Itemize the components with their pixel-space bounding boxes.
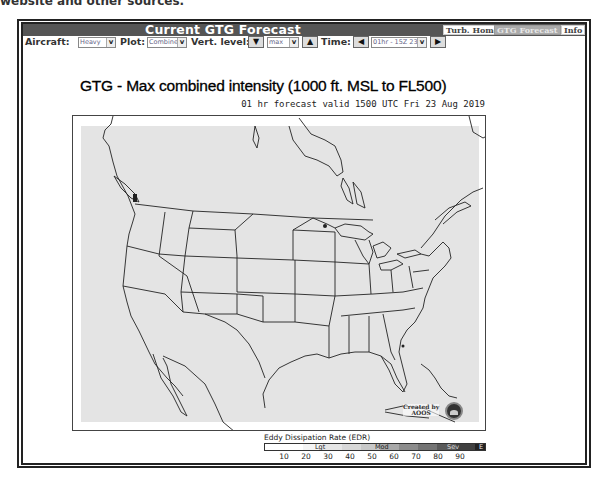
chevron-down-icon: v <box>177 38 186 47</box>
time-label: Time: <box>321 36 351 47</box>
vert-level-up-button[interactable]: ▲ <box>302 36 318 48</box>
aircraft-label: Aircraft: <box>25 36 70 47</box>
legend-tick: 80 <box>433 452 443 461</box>
legend-tick: 40 <box>345 452 355 461</box>
chart-subtitle: 01 hr forecast valid 1500 UTC Fri 23 Aug… <box>233 99 485 109</box>
legend-title: Eddy Dissipation Rate (EDR) <box>264 433 370 442</box>
legend-ticks: 10 20 30 40 50 60 70 80 90 <box>264 452 486 462</box>
triangle-down-icon: ▼ <box>253 37 259 46</box>
vert-level-label: Vert. level: <box>191 36 250 47</box>
legend-cat-extreme: E <box>479 443 483 451</box>
toolbar: Aircraft: Heavy v Plot: Combined v Vert.… <box>23 36 585 49</box>
plot-select[interactable]: Combined v <box>147 37 187 48</box>
chart-title: GTG - Max combined intensity (1000 ft. M… <box>80 77 446 95</box>
time-prev-button[interactable]: ◀ <box>353 36 369 48</box>
aircraft-select[interactable]: Heavy v <box>78 37 116 48</box>
legend-tick: 30 <box>323 452 333 461</box>
credit-text: Created by AOOS <box>403 404 439 416</box>
header-bar: Current GTG Forecast Turb. Home GTG Fore… <box>23 24 585 36</box>
info-button[interactable]: Info <box>561 25 585 35</box>
edr-color-bar: Lgt Mod Sev E <box>264 443 486 451</box>
vert-level-select-value: max <box>269 38 283 46</box>
gtg-forecast-button[interactable]: GTG Forecast <box>494 25 561 35</box>
aircraft-select-value: Heavy <box>80 38 101 46</box>
legend-tick: 10 <box>279 452 289 461</box>
forecast-map: Created by AOOS <box>72 115 486 431</box>
noaa-logo-icon <box>445 402 463 420</box>
triangle-right-icon: ▶ <box>435 37 441 46</box>
legend-tick: 90 <box>455 452 465 461</box>
legend-cat-moderate: Mod <box>375 443 389 451</box>
gtg-panel: Current GTG Forecast Turb. Home GTG Fore… <box>21 22 587 465</box>
triangle-up-icon: ▲ <box>307 37 313 46</box>
plot-label: Plot: <box>120 36 145 47</box>
us-map-outline <box>73 116 486 431</box>
chevron-down-icon: v <box>289 38 298 47</box>
panel-title: Current GTG Forecast <box>23 22 423 37</box>
page-text-cut-bottom: — — — — — — — <box>220 474 327 480</box>
legend-tick: 20 <box>301 452 311 461</box>
time-select[interactable]: 01hr - 15Z 23 Aug v <box>371 37 427 48</box>
legend-cat-light: Lgt <box>315 443 325 451</box>
chevron-down-icon: v <box>417 38 426 47</box>
triangle-left-icon: ◀ <box>358 37 364 46</box>
time-next-button[interactable]: ▶ <box>430 36 446 48</box>
page-text-cut-top: website and other sources. <box>0 0 184 8</box>
vert-level-select[interactable]: max v <box>267 37 299 48</box>
legend-tick: 70 <box>411 452 421 461</box>
legend-tick: 50 <box>367 452 377 461</box>
legend-tick: 60 <box>389 452 399 461</box>
chevron-down-icon: v <box>106 38 115 47</box>
vert-level-down-button[interactable]: ▼ <box>248 36 264 48</box>
legend-cat-severe: Sev <box>447 443 459 451</box>
